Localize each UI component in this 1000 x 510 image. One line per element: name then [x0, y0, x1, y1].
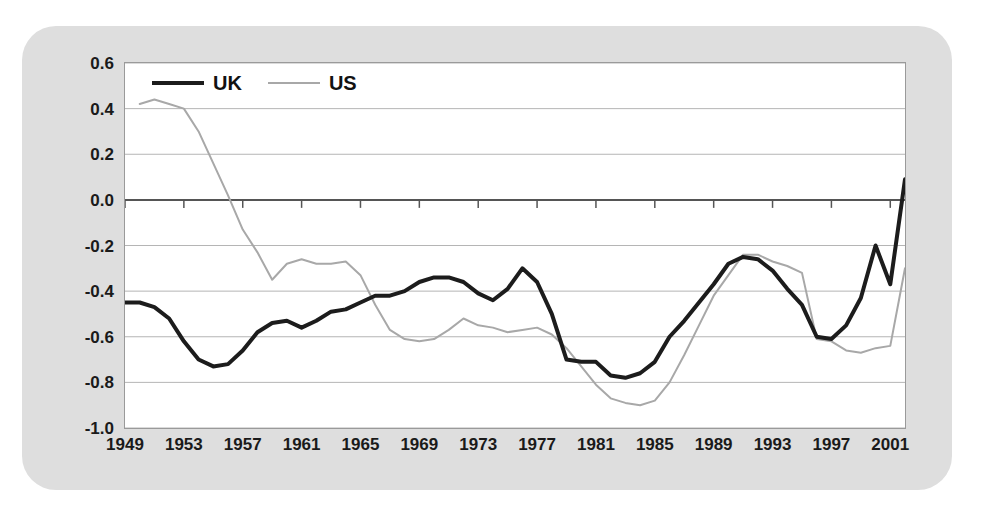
x-tick-label: 1949	[106, 436, 144, 453]
chart-legend: UK US	[152, 70, 357, 96]
y-tick-label: -0.4	[58, 283, 114, 300]
legend-swatch-us-icon	[268, 82, 320, 84]
series-line-us	[140, 100, 905, 406]
y-tick-label: -1.0	[58, 420, 114, 437]
y-axis-tick-labels: 0.60.40.20.0-0.2-0.4-0.6-0.8-1.0	[52, 62, 114, 429]
y-tick-label: 0.0	[58, 191, 114, 208]
x-tick-label: 2001	[871, 436, 909, 453]
y-tick-label: -0.8	[58, 374, 114, 391]
y-tick-label: -0.2	[58, 237, 114, 254]
legend-label-uk: UK	[213, 73, 242, 93]
series-line-uk	[125, 179, 905, 377]
x-tick-label: 1961	[283, 436, 321, 453]
y-tick-label: -0.6	[58, 328, 114, 345]
x-tick-label: 1985	[636, 436, 674, 453]
x-axis-tick-labels: 1949195319571961196519691973197719811985…	[124, 436, 906, 464]
plot-area	[124, 62, 906, 429]
y-tick-label: 0.6	[58, 55, 114, 72]
x-tick-label: 1993	[754, 436, 792, 453]
x-tick-label: 1957	[224, 436, 262, 453]
y-tick-label: 0.2	[58, 146, 114, 163]
legend-swatch-uk-icon	[152, 81, 204, 85]
x-tick-label: 1981	[577, 436, 615, 453]
x-tick-label: 1997	[812, 436, 850, 453]
x-tick-label: 1977	[518, 436, 556, 453]
legend-entry-us: US	[268, 73, 357, 93]
line-chart-svg	[125, 63, 905, 428]
figure-root: 0.60.40.20.0-0.2-0.4-0.6-0.8-1.0 1949195…	[0, 0, 1000, 510]
x-tick-label: 1973	[459, 436, 497, 453]
x-tick-label: 1969	[400, 436, 438, 453]
y-tick-label: 0.4	[58, 100, 114, 117]
legend-label-us: US	[329, 73, 357, 93]
x-tick-label: 1965	[342, 436, 380, 453]
legend-entry-uk: UK	[152, 73, 242, 93]
x-axis-tick-marks	[125, 200, 890, 208]
x-tick-label: 1989	[695, 436, 733, 453]
x-tick-label: 1953	[165, 436, 203, 453]
gridlines	[125, 63, 905, 428]
